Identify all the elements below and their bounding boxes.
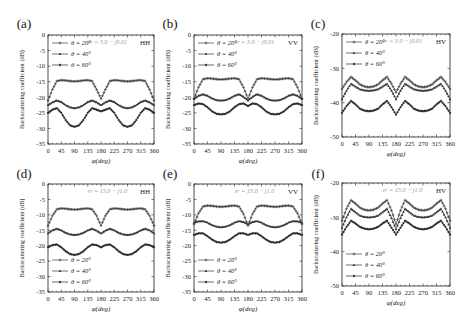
marker-plus xyxy=(298,90,301,93)
y-tick-label: 0 xyxy=(42,31,45,38)
marker-plus xyxy=(150,92,153,95)
y-tick-label: -40 xyxy=(330,99,339,106)
y-tick-label: -20 xyxy=(36,242,45,249)
permittivity-annotation: εr = 15.0 − j1.0 xyxy=(235,187,276,194)
marker-plus xyxy=(295,83,298,86)
marker-plus xyxy=(103,91,106,94)
x-tick-label: 135 xyxy=(83,147,93,154)
y-tick-label: -5 xyxy=(186,196,191,203)
marker-plus xyxy=(238,78,241,81)
marker-plus xyxy=(205,42,208,45)
marker-diamond xyxy=(205,281,208,284)
x-tick-label: 315 xyxy=(432,140,442,147)
x-tick-label: 360 xyxy=(149,147,159,154)
legend: θ = 20°θ = 40°θ = 60° xyxy=(52,39,91,68)
series-2 xyxy=(341,207,452,230)
x-axis-label: φ(deg) xyxy=(92,157,111,165)
panel-label: (e) xyxy=(163,166,177,181)
y-axis-label: Backscattering coefficient (dB) xyxy=(18,50,26,129)
panel-f: (f)04590135180225270315360-20-30-40-50φ(… xyxy=(312,166,455,307)
marker-plus xyxy=(248,94,251,97)
marker-plus xyxy=(100,224,103,227)
y-tick-label: -20 xyxy=(330,30,339,37)
y-tick-label: -15 xyxy=(36,78,45,85)
marker-triangle xyxy=(395,228,398,230)
marker-plus xyxy=(296,86,299,89)
legend-entry: θ = 40° xyxy=(71,267,91,274)
marker-plus xyxy=(100,97,103,100)
series-2 xyxy=(47,227,156,236)
x-tick-label: 225 xyxy=(405,289,415,296)
legend-entry: θ = 40° xyxy=(71,50,91,57)
marker-plus xyxy=(399,209,402,212)
marker-plus xyxy=(250,216,253,219)
marker-plus xyxy=(242,86,245,89)
x-tick-label: 180 xyxy=(96,147,106,154)
marker-plus xyxy=(392,85,395,88)
legend-entry: θ = 60° xyxy=(365,60,385,67)
marker-plus xyxy=(241,83,244,86)
marker-triangle xyxy=(390,217,393,219)
x-tick-label: 90 xyxy=(71,147,78,154)
x-tick-label: 90 xyxy=(218,295,225,302)
series-3 xyxy=(47,243,156,256)
series-3 xyxy=(341,100,452,117)
marker-plus xyxy=(200,81,203,84)
x-axis-label: φ(deg) xyxy=(387,299,406,307)
marker-triangle xyxy=(401,214,404,216)
polarization-label: HH xyxy=(140,39,150,47)
marker-plus xyxy=(387,202,390,205)
series-3 xyxy=(193,102,304,116)
marker-plus xyxy=(150,218,153,221)
marker-plus xyxy=(342,215,345,218)
x-tick-label: 315 xyxy=(284,147,294,154)
y-tick-label: -40 xyxy=(330,248,339,255)
marker-triangle xyxy=(386,207,389,209)
panel-b: (b)045901351802252703153600-5-10-15-20-2… xyxy=(162,16,306,165)
plot-frame xyxy=(48,184,154,292)
marker-plus xyxy=(51,88,54,91)
x-tick-label: 90 xyxy=(366,289,373,296)
polarization-label: VV xyxy=(288,188,298,196)
x-tick-label: 270 xyxy=(418,289,428,296)
plot-frame xyxy=(48,35,154,144)
series-1 xyxy=(47,207,156,227)
marker-diamond xyxy=(353,63,356,66)
series-3 xyxy=(193,232,304,244)
polarization-label: HV xyxy=(436,38,446,46)
y-tick-label: -35 xyxy=(182,288,191,295)
marker-plus xyxy=(151,95,154,98)
x-tick-label: 360 xyxy=(445,289,455,296)
legend-entry: θ = 20° xyxy=(217,256,237,263)
x-tick-label: 135 xyxy=(230,147,240,154)
y-tick-label: -25 xyxy=(36,109,45,116)
legend: θ = 20°θ = 40°θ = 60° xyxy=(346,38,385,67)
legend-entry: θ = 60° xyxy=(217,61,237,68)
x-axis-label: φ(deg) xyxy=(239,157,258,165)
marker-plus xyxy=(398,85,401,88)
x-tick-label: 270 xyxy=(123,147,133,154)
marker-triangle xyxy=(440,82,443,84)
marker-plus xyxy=(390,209,393,212)
series-line xyxy=(342,200,450,224)
marker-plus xyxy=(395,91,398,94)
marker-plus xyxy=(153,99,156,102)
permittivity-annotation: εr = 15.0 − j1.0 xyxy=(383,186,424,193)
series-2 xyxy=(47,99,156,109)
y-tick-label: -20 xyxy=(182,242,191,249)
marker-plus xyxy=(345,207,348,210)
marker-triangle xyxy=(392,220,395,222)
y-tick-label: -25 xyxy=(182,257,191,264)
y-axis-label: Backscattering coefficient (dB) xyxy=(18,199,26,278)
marker-triangle xyxy=(342,223,345,225)
marker-plus xyxy=(91,80,94,83)
x-tick-label: 315 xyxy=(432,289,442,296)
x-tick-label: 360 xyxy=(445,140,455,147)
marker-plus xyxy=(396,88,399,91)
legend-entry: θ = 20° xyxy=(217,39,237,46)
permittivity-annotation: εr = 15.0 − j1.0 xyxy=(88,187,129,194)
marker-plus xyxy=(97,91,100,94)
panel-d: (d)045901351802252703153600-5-10-15-20-2… xyxy=(16,166,158,313)
x-tick-label: 135 xyxy=(378,289,388,296)
x-tick-label: 315 xyxy=(136,295,146,302)
